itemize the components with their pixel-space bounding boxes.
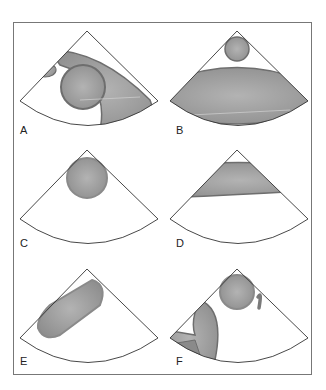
panel-d xyxy=(160,150,320,244)
panel-label-f: F xyxy=(176,355,183,367)
panel-label-a: A xyxy=(20,124,27,136)
panel-a xyxy=(20,31,160,130)
panel-b xyxy=(150,31,325,126)
panel-label-d: D xyxy=(176,237,184,249)
figure-canvas xyxy=(0,0,326,390)
panel-label-b: B xyxy=(176,124,183,136)
panel-c xyxy=(20,150,158,244)
panel-e xyxy=(20,269,158,363)
panel-label-c: C xyxy=(20,237,28,249)
panel-label-e: E xyxy=(20,355,27,367)
